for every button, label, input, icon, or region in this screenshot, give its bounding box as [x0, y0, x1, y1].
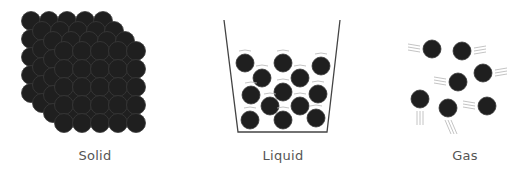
vibration-mark — [244, 107, 256, 108]
motion-line — [474, 52, 486, 54]
solid-particle — [55, 78, 74, 97]
motion-line — [474, 49, 486, 51]
gas-particle — [453, 42, 471, 60]
vibration-mark — [294, 65, 306, 66]
vibration-mark — [294, 93, 306, 94]
motion-line — [474, 46, 486, 48]
solid-particle — [73, 96, 92, 115]
liquid-particle — [291, 97, 309, 115]
motion-line — [463, 101, 475, 103]
gas-particle — [411, 90, 429, 108]
gas-particle — [439, 99, 457, 117]
vibration-mark — [256, 65, 268, 66]
solid-particle — [55, 60, 74, 79]
gas-particle — [474, 64, 492, 82]
solid-particle — [55, 42, 74, 61]
solid-particle — [55, 114, 74, 133]
motion-line — [463, 104, 475, 106]
solid-particle — [109, 78, 128, 97]
vibration-mark — [239, 50, 251, 51]
vibration-mark — [312, 81, 324, 82]
vibration-mark — [310, 105, 322, 106]
solid-particle — [109, 114, 128, 133]
vibration-mark — [264, 93, 276, 94]
motion-line — [495, 71, 507, 73]
solid-particle — [109, 42, 128, 61]
gas-particles — [408, 40, 507, 134]
solid-particle — [127, 78, 146, 97]
motion-line — [448, 120, 454, 134]
liquid-particle — [253, 69, 271, 87]
motion-line — [408, 50, 420, 52]
liquid-particle — [291, 69, 309, 87]
solid-particle — [127, 114, 146, 133]
motion-line — [434, 83, 446, 85]
gas-label: Gas — [452, 148, 478, 163]
solid-particle — [91, 60, 110, 79]
motion-line — [445, 120, 451, 134]
liquid-particle — [274, 111, 292, 129]
vibration-mark — [277, 50, 289, 51]
solid-particle — [91, 42, 110, 61]
solid-particle — [73, 42, 92, 61]
liquid-particle — [274, 54, 292, 72]
liquid-particle — [236, 54, 254, 72]
solid-particle — [73, 60, 92, 79]
gas-particle — [423, 40, 441, 58]
motion-line — [408, 44, 420, 46]
liquid-particle — [241, 111, 259, 129]
solid-particle — [127, 42, 146, 61]
solid-particle — [55, 96, 74, 115]
solid-particle — [91, 114, 110, 133]
motion-line — [463, 107, 475, 109]
vibration-mark — [277, 79, 289, 80]
solid-particle — [91, 78, 110, 97]
motion-line — [408, 47, 420, 49]
liquid-particle — [307, 109, 325, 127]
vibration-mark — [277, 107, 289, 108]
liquid-particle — [261, 97, 279, 115]
solid-particle-lattice — [22, 12, 146, 133]
liquid-particle — [312, 57, 330, 75]
liquid-label: Liquid — [262, 148, 303, 163]
gas-particle — [478, 97, 496, 115]
vibration-mark — [245, 82, 257, 83]
solid-particle — [109, 96, 128, 115]
solid-particle — [73, 78, 92, 97]
gas-particle — [449, 73, 467, 91]
liquid-particle — [274, 83, 292, 101]
motion-line — [495, 74, 507, 76]
liquid-container — [224, 20, 340, 132]
solid-particle — [127, 60, 146, 79]
solid-particle — [91, 96, 110, 115]
liquid-particle — [242, 86, 260, 104]
solid-particle — [127, 96, 146, 115]
liquid-particle — [309, 85, 327, 103]
motion-line — [451, 120, 457, 134]
solid-label: Solid — [78, 148, 111, 163]
motion-line — [434, 80, 446, 82]
solid-particle — [73, 114, 92, 133]
solid-particle — [109, 60, 128, 79]
motion-line — [495, 68, 507, 70]
vibration-mark — [315, 53, 327, 54]
motion-line — [434, 77, 446, 79]
